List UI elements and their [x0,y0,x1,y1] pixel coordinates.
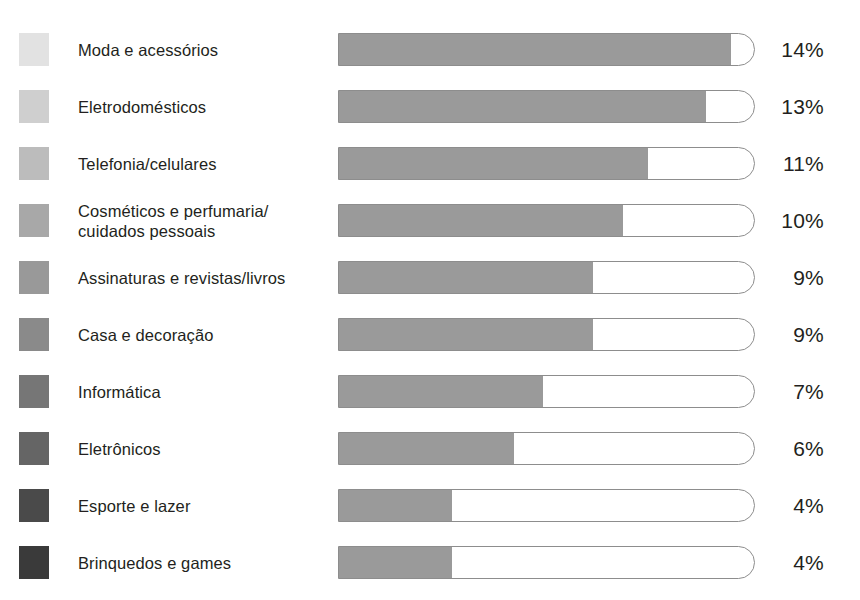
value-label: 4% [793,494,824,517]
bar-cell [338,375,768,408]
legend-swatch [19,147,49,180]
value-label: 11% [783,152,824,175]
value-label-cell: 4% [768,551,860,575]
legend-swatch-cell [0,33,68,66]
bar-fill [338,261,593,294]
bar-track [338,375,755,408]
value-label-cell: 9% [768,266,860,290]
category-label-cell: Casa e decoração [68,325,338,345]
legend-swatch-cell [0,90,68,123]
value-label: 9% [793,323,824,346]
category-label: Telefonia/celulares [78,154,338,174]
bar-track [338,147,755,180]
bar-fill [338,489,452,522]
legend-swatch-cell [0,375,68,408]
bar-track [338,432,755,465]
category-label: Eletrodomésticos [78,97,338,117]
category-label-cell: Telefonia/celulares [68,154,338,174]
category-label: Assinaturas e revistas/livros [78,268,338,288]
bar-track [338,33,755,66]
bar-fill [338,90,706,123]
legend-swatch [19,33,49,66]
category-label-cell: Esporte e lazer [68,496,338,516]
category-label: Cosméticos e perfumaria/ cuidados pessoa… [78,201,338,241]
value-label-cell: 7% [768,380,860,404]
legend-swatch [19,318,49,351]
bar-fill [338,375,543,408]
legend-swatch [19,90,49,123]
legend-swatch [19,432,49,465]
bar-fill [338,318,593,351]
category-label: Esporte e lazer [78,496,338,516]
horizontal-bar-chart: Moda e acessórios14%Eletrodomésticos13%T… [0,0,860,600]
legend-swatch [19,546,49,579]
chart-row: Eletrônicos6% [0,420,860,477]
category-label: Moda e acessórios [78,40,338,60]
value-label: 13% [781,95,824,118]
value-label: 6% [793,437,824,460]
value-label: 7% [793,380,824,403]
bar-track [338,546,755,579]
legend-swatch [19,375,49,408]
bar-track [338,204,755,237]
value-label: 9% [793,266,824,289]
value-label: 4% [793,551,824,574]
category-label-cell: Informática [68,382,338,402]
chart-row: Assinaturas e revistas/livros9% [0,249,860,306]
bar-track [338,489,755,522]
value-label: 10% [781,209,824,232]
value-label-cell: 11% [768,152,860,176]
value-label-cell: 14% [768,38,860,62]
bar-cell [338,261,768,294]
bar-cell [338,33,768,66]
legend-swatch-cell [0,204,68,237]
chart-row: Brinquedos e games4% [0,534,860,591]
legend-swatch-cell [0,318,68,351]
chart-row: Casa e decoração9% [0,306,860,363]
bar-cell [338,147,768,180]
legend-swatch-cell [0,147,68,180]
category-label: Brinquedos e games [78,553,338,573]
chart-row: Cosméticos e perfumaria/ cuidados pessoa… [0,192,860,249]
category-label: Informática [78,382,338,402]
category-label-cell: Assinaturas e revistas/livros [68,268,338,288]
value-label-cell: 13% [768,95,860,119]
category-label-cell: Cosméticos e perfumaria/ cuidados pessoa… [68,201,338,241]
legend-swatch-cell [0,489,68,522]
category-label-cell: Eletrônicos [68,439,338,459]
legend-swatch [19,204,49,237]
category-label-cell: Eletrodomésticos [68,97,338,117]
category-label: Eletrônicos [78,439,338,459]
bar-fill [338,546,452,579]
chart-row: Moda e acessórios14% [0,21,860,78]
bar-fill [338,432,514,465]
legend-swatch-cell [0,261,68,294]
legend-swatch-cell [0,546,68,579]
bar-cell [338,90,768,123]
value-label-cell: 6% [768,437,860,461]
bar-cell [338,546,768,579]
value-label-cell: 9% [768,323,860,347]
bar-track [338,90,755,123]
bar-track [338,318,755,351]
bar-cell [338,489,768,522]
bar-cell [338,204,768,237]
bar-cell [338,432,768,465]
category-label-cell: Moda e acessórios [68,40,338,60]
chart-row: Informática7% [0,363,860,420]
bar-track [338,261,755,294]
bar-fill [338,147,648,180]
value-label-cell: 4% [768,494,860,518]
bar-cell [338,318,768,351]
legend-swatch [19,489,49,522]
value-label-cell: 10% [768,209,860,233]
chart-row: Esporte e lazer4% [0,477,860,534]
legend-swatch [19,261,49,294]
chart-row: Telefonia/celulares11% [0,135,860,192]
category-label: Casa e decoração [78,325,338,345]
legend-swatch-cell [0,432,68,465]
category-label-cell: Brinquedos e games [68,553,338,573]
value-label: 14% [781,38,824,61]
bar-fill [338,33,731,66]
chart-row: Eletrodomésticos13% [0,78,860,135]
